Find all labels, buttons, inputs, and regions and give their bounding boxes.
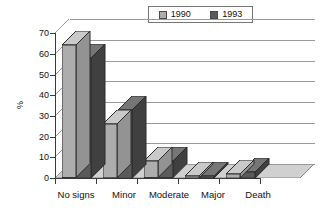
x-category-label-no-signs: No signs xyxy=(48,190,104,200)
y-tick-label-10: 10 xyxy=(31,153,49,162)
y-axis-title: % xyxy=(15,93,25,117)
y-tick-label-70: 70 xyxy=(31,29,49,38)
gridline-60 xyxy=(70,40,315,41)
y-tick-label-30: 30 xyxy=(31,112,49,121)
x-category-label-death: Death xyxy=(232,190,284,200)
y-tick-label-20: 20 xyxy=(31,133,49,142)
bar-minor-1990 xyxy=(103,110,133,180)
gridline-70 xyxy=(70,19,315,20)
y-tick-50 xyxy=(50,75,55,76)
x-tick-0 xyxy=(55,179,56,184)
plot-area: 70 60 50 40 30 20 10 0 % No signs Minor … xyxy=(0,0,336,215)
y-tick-70 xyxy=(50,33,55,34)
x-category-label-major: Major xyxy=(188,190,238,200)
y-tick-label-50: 50 xyxy=(31,71,49,80)
bar-moderate-1990 xyxy=(144,147,174,180)
bar-chart: 1990 1993 xyxy=(0,0,336,215)
y-tick-60 xyxy=(50,54,55,55)
y-tick-10 xyxy=(50,157,55,158)
bar-death-1990 xyxy=(226,160,256,180)
bar-no-signs-1990 xyxy=(62,31,92,180)
y-tick-40 xyxy=(50,95,55,96)
y-tick-label-40: 40 xyxy=(31,91,49,100)
y-tick-30 xyxy=(50,116,55,117)
y-tick-label-0: 0 xyxy=(31,174,49,183)
bar-major-1990 xyxy=(185,162,215,180)
y-tick-20 xyxy=(50,137,55,138)
y-axis-line xyxy=(55,33,56,179)
y-tick-label-60: 60 xyxy=(31,50,49,59)
